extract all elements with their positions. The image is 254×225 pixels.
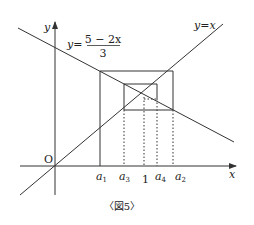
tick-a3: a3 — [119, 170, 130, 184]
tick-1: 1 — [142, 173, 149, 186]
y-axis-label: y — [43, 21, 51, 34]
label-decreasing-equation: y= 5 − 2x 3 — [66, 33, 122, 60]
svg-text:y=: y= — [66, 38, 82, 51]
tick-a2: a2 — [175, 170, 186, 184]
fraction-denominator: 3 — [100, 47, 107, 60]
origin-label: O — [44, 153, 53, 166]
x-axis-label: x — [229, 168, 236, 181]
tick-a1: a1 — [96, 170, 107, 184]
line-decreasing — [18, 28, 234, 142]
label-y-equals-x: y=x — [193, 19, 216, 32]
tick-a4: a4 — [155, 170, 167, 184]
cobweb-diagram: y O x y=x y= 5 − 2x 3 a1 a3 1 a4 a2 〈図5〉 — [0, 0, 254, 225]
figure-caption: 〈図5〉 — [104, 201, 140, 212]
fraction-numerator: 5 − 2x — [85, 33, 122, 46]
